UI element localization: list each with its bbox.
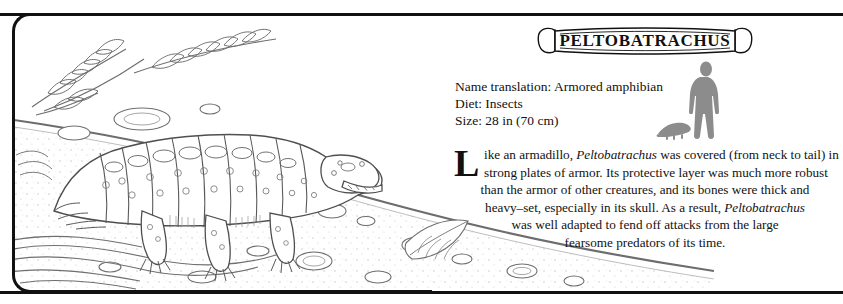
description-paragraph: L ike an armadillo, Peltobatrachus was c… bbox=[454, 146, 836, 252]
scale-comparison bbox=[656, 60, 751, 146]
body-line-3: than the armor of other creatures, and i… bbox=[454, 181, 836, 199]
body-line-6: fearsome predators of its time. bbox=[454, 234, 836, 252]
body-line-5: was well adapted to fend off attacks fro… bbox=[454, 216, 836, 234]
peltobatrachus-silhouette bbox=[657, 123, 691, 140]
body-line-4: heavy–set, especially in its skull. As a… bbox=[454, 199, 836, 217]
info-column: PELTOBATRACHUS Name translation: Armored… bbox=[448, 18, 836, 268]
drop-cap: L bbox=[454, 148, 479, 178]
body-line-1: ike an armadillo, Peltobatrachus was cov… bbox=[484, 146, 836, 164]
human-silhouette bbox=[689, 62, 719, 140]
field-guide-page: PELTOBATRACHUS Name translation: Armored… bbox=[0, 0, 843, 304]
page-title: PELTOBATRACHUS bbox=[536, 24, 754, 58]
title-banner: PELTOBATRACHUS bbox=[536, 24, 754, 58]
frame-rule-top bbox=[0, 13, 843, 16]
body-line-2: strong plates of armor. Its protective l… bbox=[484, 164, 836, 182]
frame-rule-bottom bbox=[0, 291, 843, 294]
